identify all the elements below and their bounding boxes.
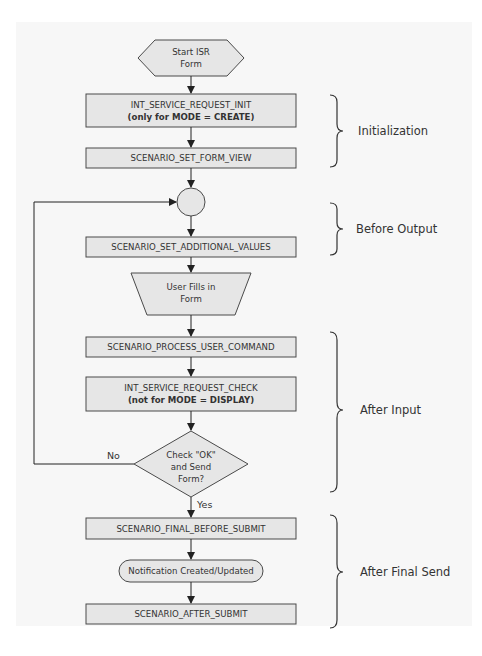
isr-flowchart: Start ISR Form INT_SERVICE_REQUEST_INIT … xyxy=(0,0,482,656)
additional-values-label: SCENARIO_SET_ADDITIONAL_VALUES xyxy=(111,242,271,252)
start-node: Start ISR Form xyxy=(138,40,244,76)
start-label-2: Form xyxy=(180,59,202,69)
decision-label-1: Check "OK" xyxy=(166,450,216,460)
phase-braces xyxy=(330,95,343,628)
user-fills-label-1: User Fills in xyxy=(167,282,216,292)
decision-label-2: and Send xyxy=(171,462,212,472)
final-before-submit-step: SCENARIO_FINAL_BEFORE_SUBMIT xyxy=(86,518,296,539)
yes-label: Yes xyxy=(196,499,212,510)
after-submit-step: SCENARIO_AFTER_SUBMIT xyxy=(86,604,296,624)
check-step: INT_SERVICE_REQUEST_CHECK (not for MODE … xyxy=(86,377,296,411)
brace-after-final-send xyxy=(330,515,343,628)
brace-before-output xyxy=(330,203,343,255)
final-before-submit-label: SCENARIO_FINAL_BEFORE_SUBMIT xyxy=(116,524,266,534)
notification-label: Notification Created/Updated xyxy=(128,566,254,576)
start-label-1: Start ISR xyxy=(172,47,210,57)
check-label-1: INT_SERVICE_REQUEST_CHECK xyxy=(124,383,258,393)
decision-node: Check "OK" and Send Form? xyxy=(134,431,248,497)
form-view-step: SCENARIO_SET_FORM_VIEW xyxy=(86,148,296,168)
phase-label-before-output: Before Output xyxy=(356,222,438,236)
user-fills-form-step: User Fills in Form xyxy=(131,273,251,315)
init-step: INT_SERVICE_REQUEST_INIT (only for MODE … xyxy=(86,94,296,127)
process-user-command-step: SCENARIO_PROCESS_USER_COMMAND xyxy=(86,337,296,357)
user-fills-label-2: Form xyxy=(180,294,202,304)
phase-label-initialization: Initialization xyxy=(358,124,428,138)
form-view-label: SCENARIO_SET_FORM_VIEW xyxy=(131,153,252,163)
loop-connector xyxy=(177,188,205,216)
notification-terminal: Notification Created/Updated xyxy=(119,560,263,582)
no-label: No xyxy=(107,450,120,461)
brace-initialization xyxy=(330,95,343,167)
after-submit-label: SCENARIO_AFTER_SUBMIT xyxy=(134,609,248,619)
init-label-2: (only for MODE = CREATE) xyxy=(128,112,255,122)
check-label-2: (not for MODE = DISPLAY) xyxy=(128,395,254,405)
additional-values-step: SCENARIO_SET_ADDITIONAL_VALUES xyxy=(86,237,296,257)
phase-label-after-final-send: After Final Send xyxy=(360,565,450,579)
phase-label-after-input: After Input xyxy=(360,403,422,417)
brace-after-input xyxy=(330,332,343,492)
decision-label-3: Form? xyxy=(178,474,204,484)
init-label-1: INT_SERVICE_REQUEST_INIT xyxy=(131,100,252,110)
process-command-label: SCENARIO_PROCESS_USER_COMMAND xyxy=(107,342,275,352)
